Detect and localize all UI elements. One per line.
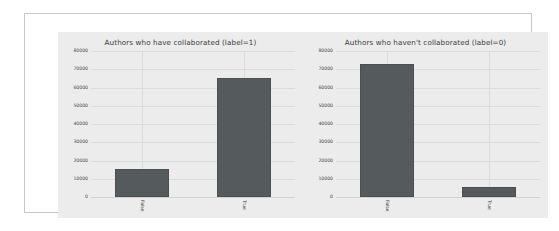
gridline [91,51,295,52]
y-axis-tick-label: 30000 [318,140,333,145]
gridline [336,51,540,52]
y-axis-tick-label: 30000 [73,140,88,145]
matplotlib-figure: Authors who have collaborated (label=1) … [58,32,548,218]
gridline [336,197,540,198]
bar [462,187,515,197]
y-axis-tick-label: 50000 [73,103,88,108]
plot-area: 0100002000030000400005000060000700008000… [336,51,540,197]
y-axis-tick-label: 20000 [73,158,88,163]
x-axis-tick-label: True [486,200,491,210]
y-axis-tick-label: 0 [330,195,333,200]
subplot-label-0: Authors who haven't collaborated (label=… [303,32,548,218]
y-axis-tick-label: 40000 [318,122,333,127]
bar [115,169,168,197]
y-axis-tick-label: 60000 [73,85,88,90]
y-axis-tick-label: 70000 [73,67,88,72]
y-axis-tick-label: 20000 [318,158,333,163]
x-axis-tick-label: False [384,200,389,212]
bar [360,64,413,197]
y-axis-tick-label: 80000 [73,49,88,54]
y-axis-tick-label: 0 [85,195,88,200]
plot-area: 0100002000030000400005000060000700008000… [91,51,295,197]
y-axis-tick-label: 10000 [73,176,88,181]
y-axis-tick-label: 40000 [73,122,88,127]
chart-title: Authors who have collaborated (label=1) [58,38,303,47]
x-axis-tick-label: True [241,200,246,210]
bar [217,78,270,197]
x-axis-tick-label: False [139,200,144,212]
screenshot-page: Authors who have collaborated (label=1) … [0,0,559,231]
y-axis-tick-label: 60000 [318,85,333,90]
y-axis-tick-label: 70000 [318,67,333,72]
y-axis-tick-label: 80000 [318,49,333,54]
y-axis-tick-label: 10000 [318,176,333,181]
gridline [91,197,295,198]
gridline [91,69,295,70]
gridline-vertical [489,51,490,197]
chart-title: Authors who haven't collaborated (label=… [303,38,548,47]
document-frame: Authors who have collaborated (label=1) … [24,13,532,213]
subplot-label-1: Authors who have collaborated (label=1) … [58,32,303,218]
y-axis-tick-label: 50000 [318,103,333,108]
